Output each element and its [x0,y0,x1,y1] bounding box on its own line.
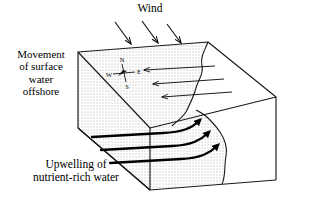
movement-line-2: of surface [2,60,80,72]
upwelling-line-1: Upwelling of [14,158,138,171]
wind-arrow-group [115,21,181,44]
movement-line-1: Movement [2,48,80,60]
movement-line-3: water [2,73,80,85]
upwelling-block-diagram: N S W E Wind Movement of surface water o… [0,0,309,208]
compass-north-label: N [120,56,125,63]
wind-arrow-2 [142,21,158,43]
compass-east-label: E [137,68,141,75]
compass-south-label: S [125,83,129,90]
movement-line-4: offshore [2,85,80,97]
upwelling-line-2: nutrient-rich water [14,171,138,184]
offshore-movement-label: Movement of surface water offshore [2,48,80,97]
upwelling-label: Upwelling of nutrient-rich water [14,158,138,184]
wind-label: Wind [120,2,180,15]
wind-arrow-3 [167,24,181,43]
wind-arrow-1 [115,22,131,44]
compass-west-label: W [106,71,113,78]
